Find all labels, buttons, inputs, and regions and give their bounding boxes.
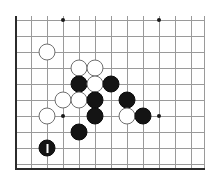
star-point-top-left xyxy=(61,18,65,22)
stone-white-7[interactable] xyxy=(39,108,56,125)
stone-black-7[interactable] xyxy=(71,124,88,141)
stone-white-8[interactable] xyxy=(119,108,136,125)
go-board-diagram xyxy=(0,0,210,185)
grid-line-horizontal-1 xyxy=(15,36,205,37)
grid-line-horizontal-5 xyxy=(15,100,205,101)
grid-line-horizontal-3 xyxy=(15,68,205,69)
stone-black-last-move[interactable] xyxy=(39,140,56,157)
grid-line-vertical-9 xyxy=(175,16,176,168)
grid-line-vertical-8 xyxy=(159,16,160,168)
grid-line-horizontal-7 xyxy=(15,132,205,133)
stone-white-5[interactable] xyxy=(55,92,72,109)
stone-white-2[interactable] xyxy=(71,60,88,77)
grid-line-horizontal-0 xyxy=(15,20,205,21)
grid-line-vertical-11 xyxy=(204,16,205,168)
goban-grid[interactable] xyxy=(0,0,210,185)
left-edge xyxy=(15,16,17,169)
star-point-center-right xyxy=(157,114,161,118)
stone-white-3[interactable] xyxy=(87,60,104,77)
last-move-marker-icon xyxy=(46,144,48,153)
star-point-center-left xyxy=(61,114,65,118)
stone-black-1[interactable] xyxy=(71,76,88,93)
stone-white-1[interactable] xyxy=(39,44,56,61)
star-point-top-right xyxy=(157,18,161,22)
stone-white-6[interactable] xyxy=(71,92,88,109)
grid-line-vertical-7 xyxy=(143,16,144,168)
stone-black-4[interactable] xyxy=(119,92,136,109)
grid-line-vertical-10 xyxy=(191,16,192,168)
stone-black-5[interactable] xyxy=(87,108,104,125)
grid-line-vertical-0 xyxy=(31,16,32,168)
bottom-edge xyxy=(15,168,205,170)
grid-line-horizontal-9 xyxy=(15,164,205,165)
stone-black-3[interactable] xyxy=(87,92,104,109)
stone-black-6[interactable] xyxy=(135,108,152,125)
stone-white-4[interactable] xyxy=(87,76,104,93)
stone-black-2[interactable] xyxy=(103,76,120,93)
